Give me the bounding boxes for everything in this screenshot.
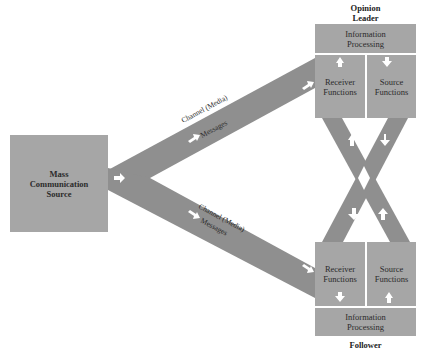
lower-channel-band xyxy=(108,168,315,298)
diagram-canvas: Channel (Media) Messages Channel (Media)… xyxy=(0,0,424,353)
follower-source-functions-box: Source Functions xyxy=(367,242,416,306)
follower-information-processing-box: Information Processing xyxy=(315,308,416,336)
follower-title: Follower xyxy=(315,340,416,350)
leader-receiver-functions-label: Receiver Functions xyxy=(323,77,357,97)
leader-information-processing-label: Information Processing xyxy=(345,29,386,49)
leader-information-processing-box: Information Processing xyxy=(315,24,416,53)
leader-source-functions-box: Source Functions xyxy=(367,55,416,118)
follower-receiver-functions-label: Receiver Functions xyxy=(323,264,357,284)
opinion-leader-title: Opinion Leader xyxy=(315,3,416,23)
mass-communication-source-label: Mass Communication Source xyxy=(30,169,89,199)
follower-source-functions-label: Source Functions xyxy=(375,264,409,284)
follower-receiver-functions-box: Receiver Functions xyxy=(315,242,365,306)
leader-source-functions-label: Source Functions xyxy=(375,77,409,97)
follower-information-processing-label: Information Processing xyxy=(345,312,386,332)
mass-communication-source-box: Mass Communication Source xyxy=(10,135,108,232)
leader-receiver-functions-box: Receiver Functions xyxy=(315,55,365,118)
